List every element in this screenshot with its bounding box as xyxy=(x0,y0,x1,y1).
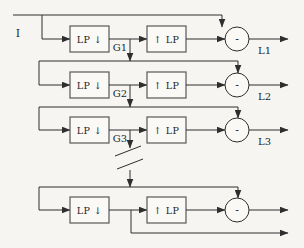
downsample-filter-label: LP ↓ xyxy=(77,205,103,216)
break-continuation-marks xyxy=(115,146,143,187)
input-branch-line xyxy=(42,15,70,39)
subtract-operator: - xyxy=(235,204,239,217)
subtract-operator: - xyxy=(235,124,239,137)
upsample-filter-label: ↑ LP xyxy=(154,125,180,136)
laplacian-level-label: L1 xyxy=(258,45,271,56)
downsample-filter-label: LP ↓ xyxy=(77,34,103,45)
input-branch-line xyxy=(39,61,70,85)
downsample-filter-label: LP ↓ xyxy=(77,125,103,136)
upsample-filter-label: ↑ LP xyxy=(154,34,180,45)
pyramid-level-1: I LP ↓ G1 ↑ LP - L1 xyxy=(13,15,288,61)
downsample-filter-label: LP ↓ xyxy=(77,80,103,91)
passthrough-line xyxy=(39,61,238,73)
gaussian-level-label: G1 xyxy=(113,42,127,53)
upsample-filter-label: ↑ LP xyxy=(154,80,180,91)
input-signal-label: I xyxy=(16,27,20,40)
gaussian-level-label: G2 xyxy=(113,88,127,99)
laplacian-level-label: L3 xyxy=(258,136,271,147)
laplacian-level-label: L2 xyxy=(258,91,271,102)
pyramid-level-3: LP ↓ G3 ↑ LP - L3 xyxy=(39,107,288,148)
passthrough-line xyxy=(39,107,238,118)
input-branch-line xyxy=(39,107,70,130)
subtract-operator: - xyxy=(235,79,239,92)
break-slash-1 xyxy=(115,146,141,156)
subtract-operator: - xyxy=(235,33,239,46)
upsample-filter-label: ↑ LP xyxy=(154,205,180,216)
passthrough-line xyxy=(39,187,238,198)
input-branch-line xyxy=(39,187,70,210)
input-passthrough-line xyxy=(13,15,222,27)
pyramid-level-2: LP ↓ G2 ↑ LP - L2 xyxy=(39,61,288,107)
pyramid-level-final: LP ↓ ↑ LP - xyxy=(39,187,288,233)
break-slash-2 xyxy=(117,159,143,169)
pyramid-block-diagram: I LP ↓ G1 ↑ LP - L1 LP ↓ G2 ↑ LP - L2 xyxy=(0,0,304,248)
gaussian-level-label: G3 xyxy=(113,133,127,144)
